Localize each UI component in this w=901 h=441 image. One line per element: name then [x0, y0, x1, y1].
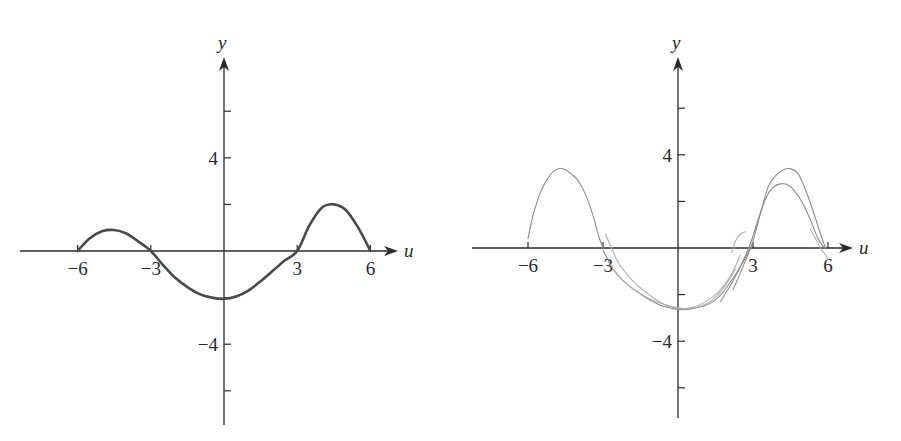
- left-panel: uy−6−336−44: [20, 32, 414, 425]
- y-axis-label: y: [670, 32, 681, 53]
- y-tick-label: −4: [198, 334, 219, 355]
- figure: uy−6−336−44 uy−6−336−44: [0, 0, 901, 441]
- x-tick-label: −3: [593, 255, 613, 276]
- series-sketch-middle-2: [606, 234, 741, 309]
- x-axis-label: u: [404, 240, 414, 261]
- x-axis-label: u: [859, 237, 869, 258]
- right-panel: uy−6−336−44: [472, 32, 869, 418]
- y-tick-label: −4: [652, 331, 673, 352]
- y-axis-label: y: [216, 32, 227, 53]
- series-sketch-stroke-b: [811, 229, 829, 259]
- x-tick-label: −3: [141, 258, 161, 279]
- series-sketch-stroke-a: [732, 232, 746, 253]
- x-tick-label: −6: [67, 258, 87, 279]
- y-tick-label: 4: [209, 148, 219, 169]
- x-tick-label: 3: [292, 258, 302, 279]
- x-tick-label: −6: [518, 255, 538, 276]
- y-tick-label: 4: [663, 145, 673, 166]
- x-tick-label: 6: [366, 258, 376, 279]
- series-sketch-middle-3: [613, 269, 736, 309]
- series-sketch-left-hump: [528, 168, 603, 248]
- series-sketch-right-hump-1: [733, 169, 826, 290]
- x-tick-label: 6: [823, 255, 833, 276]
- x-tick-label: 3: [748, 255, 758, 276]
